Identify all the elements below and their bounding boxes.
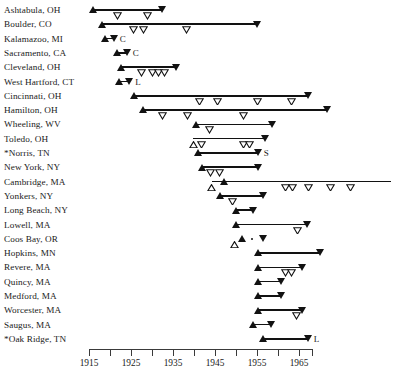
marker-filled-up-triangle-icon xyxy=(216,192,224,199)
axis-tick-label: 1935 xyxy=(164,358,183,368)
marker-filled-down-triangle-icon xyxy=(253,21,261,28)
marker-filled-up-triangle-icon xyxy=(130,92,138,99)
marker-filled-down-triangle-icon xyxy=(323,106,331,113)
marker-filled-down-triangle-icon xyxy=(172,64,180,71)
marker-filled-up-triangle-icon xyxy=(139,106,147,113)
marker-filled-up-triangle-icon xyxy=(254,249,262,256)
marker-filled-up-triangle-icon xyxy=(254,292,262,299)
marker-filled-down-triangle-icon xyxy=(277,292,285,299)
axis-tick xyxy=(278,349,279,356)
axis-tick xyxy=(110,349,111,356)
marker-filled-up-triangle-icon xyxy=(115,78,123,85)
axis-tick xyxy=(257,349,258,356)
marker-filled-up-triangle-icon xyxy=(254,307,262,314)
axis-tick-label: 1945 xyxy=(206,358,225,368)
marker-filled-down-triangle-icon xyxy=(316,249,324,256)
marker-filled-down-triangle-icon xyxy=(304,335,312,342)
marker-dot xyxy=(251,238,253,240)
row-line xyxy=(102,23,257,25)
axis-endcap xyxy=(312,349,313,356)
marker-filled-up-triangle-icon xyxy=(249,321,257,328)
axis-tick-label: 1955 xyxy=(248,358,267,368)
marker-filled-down-triangle-icon xyxy=(304,92,312,99)
marker-filled-down-triangle-icon xyxy=(298,307,306,314)
axis-tick xyxy=(152,349,153,356)
row-line xyxy=(212,181,391,183)
axis-tick xyxy=(173,349,174,356)
marker-filled-down-triangle-icon xyxy=(277,278,285,285)
marker-filled-up-triangle-icon xyxy=(117,64,125,71)
marker-filled-up-triangle-icon xyxy=(89,6,97,13)
marker-filled-down-triangle-icon xyxy=(259,192,267,199)
marker-filled-down-triangle-icon xyxy=(303,221,311,228)
marker-filled-up-triangle-icon xyxy=(238,235,246,242)
marker-filled-down-triangle-icon xyxy=(267,321,275,328)
axis-tick xyxy=(299,349,300,356)
marker-filled-up-triangle-icon xyxy=(98,21,106,28)
row-line xyxy=(198,152,258,154)
marker-filled-up-triangle-icon xyxy=(101,35,109,42)
marker-filled-up-triangle-icon xyxy=(232,221,240,228)
axis-tick-label: 1925 xyxy=(122,358,141,368)
marker-filled-down-triangle-icon xyxy=(110,35,118,42)
marker-filled-up-triangle-icon xyxy=(232,207,240,214)
marker-filled-down-triangle-icon xyxy=(259,235,267,242)
marker-filled-down-triangle-icon xyxy=(158,6,166,13)
axis-tick-label: 1915 xyxy=(80,358,99,368)
marker-filled-down-triangle-icon xyxy=(123,49,131,56)
marker-filled-down-triangle-icon xyxy=(254,164,262,171)
marker-filled-up-triangle-icon xyxy=(254,264,262,271)
axis-endcap xyxy=(89,349,90,356)
marker-filled-down-triangle-icon xyxy=(125,78,133,85)
axis-tick-label: 1965 xyxy=(290,358,309,368)
row-note: L xyxy=(314,331,320,347)
marker-filled-down-triangle-icon xyxy=(254,149,262,156)
marker-filled-up-triangle-icon xyxy=(220,178,228,185)
marker-filled-up-triangle-icon xyxy=(254,278,262,285)
marker-filled-down-triangle-icon xyxy=(261,135,269,142)
marker-filled-up-triangle-icon xyxy=(194,149,202,156)
row-line xyxy=(263,338,308,340)
x-axis: 191519251935194519551965 xyxy=(0,349,395,379)
axis-tick xyxy=(236,349,237,356)
marker-filled-up-triangle-icon xyxy=(259,335,267,342)
row-label: *Oak Ridge, TN xyxy=(4,331,66,347)
axis-tick xyxy=(194,349,195,356)
marker-filled-down-triangle-icon xyxy=(298,264,306,271)
marker-filled-up-triangle-icon xyxy=(192,121,200,128)
marker-filled-down-triangle-icon xyxy=(268,121,276,128)
axis-tick xyxy=(215,349,216,356)
row-line xyxy=(258,252,320,254)
timeline-row: *Oak Ridge, TNL xyxy=(0,331,395,347)
axis-tick xyxy=(131,349,132,356)
row-line xyxy=(143,109,327,111)
marker-filled-up-triangle-icon xyxy=(113,49,121,56)
timeline-chart: Ashtabula, OH Boulder, CO Kalamazoo, MIC… xyxy=(0,0,395,379)
marker-filled-down-triangle-icon xyxy=(249,207,257,214)
